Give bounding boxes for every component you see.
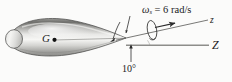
projectile-rear-cap	[6, 30, 23, 49]
spin-vector-arrow	[155, 23, 175, 27]
spin-circle	[146, 20, 158, 41]
body-axis-label: z	[210, 16, 214, 26]
nose-gloss	[28, 23, 96, 39]
diagram-canvas	[0, 0, 232, 82]
body-axis-tick	[126, 16, 130, 33]
projectile-spin-diagram: ωs = 6 rad/s z Z 10° G	[0, 0, 232, 82]
body-axis-z-line	[116, 20, 208, 40]
spin-rate-label: ωs = 6 rad/s	[142, 5, 191, 16]
center-of-mass-label: G	[42, 33, 50, 44]
projectile-body-group	[6, 18, 127, 56]
angle-label: 10°	[122, 64, 136, 74]
spin-equation-text: = 6 rad/s	[152, 4, 191, 15]
axes-group	[110, 16, 209, 45]
angle-callout-group	[129, 40, 150, 62]
center-of-mass-dot	[52, 38, 56, 42]
reference-axis-label: Z	[212, 39, 219, 51]
